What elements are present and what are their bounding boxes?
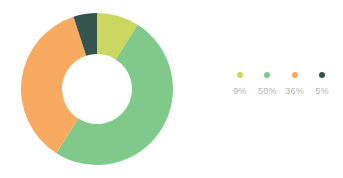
- legend-item-label: 50%: [258, 86, 277, 96]
- legend-dot-icon: [319, 72, 325, 78]
- donut-slice-group: [21, 13, 173, 165]
- legend-item[interactable]: 36%: [283, 66, 307, 96]
- legend-item[interactable]: 50%: [255, 66, 279, 96]
- legend-dot-icon: [264, 72, 270, 78]
- legend-dot-icon: [237, 72, 243, 78]
- donut-chart-svg: [20, 12, 174, 166]
- legend-dot-icon: [292, 72, 298, 78]
- legend-item[interactable]: 9%: [228, 66, 252, 96]
- legend-item-label: 36%: [285, 86, 304, 96]
- donut-chart: [20, 12, 174, 166]
- legend-item[interactable]: 5%: [310, 66, 334, 96]
- legend-item-label: 5%: [315, 86, 328, 96]
- chart-legend: 9%50%36%5%: [228, 66, 334, 100]
- legend-item-label: 9%: [233, 86, 246, 96]
- donut-chart-page: 9%50%36%5%: [0, 0, 343, 178]
